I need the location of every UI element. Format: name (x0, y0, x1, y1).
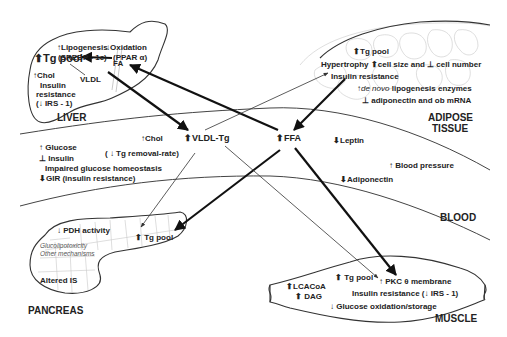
liver-fa: FA (113, 59, 123, 68)
liver-label: LIVER (57, 112, 87, 123)
adipose-de-novo-rest: lipogenesis enzymes (389, 84, 472, 93)
muscle-lcacoa: ⬆LCACoA (286, 282, 326, 291)
pancreas-other-mechanisms: Other mechanisms (40, 250, 95, 257)
muscle-insulin-resistance: Insulin resistance (↓ IRS - 1) (352, 289, 459, 298)
pancreas-pdh-activity: ↓ PDH activity (57, 226, 110, 235)
pancreas-label: PANCREAS (28, 305, 84, 316)
muscle-glucose-oxidation: ↓ Glucose oxidation/storage (330, 302, 437, 311)
adipose-insulin-resistance: Insulin resistance (331, 72, 399, 81)
blood-leptin: ⬇Leptin (333, 136, 364, 145)
muscle-pkc: ↑ PKC θ membrane (379, 277, 452, 286)
metabolic-diagram: ↑Lipogenesis (SREBP - 1c) ↓Oxidation (PP… (0, 0, 507, 337)
blood-pressure: ↑ Blood pressure (389, 161, 454, 170)
blood-impaired-glucose: Impaired glucose homeostasis (45, 164, 162, 173)
liver-chol: ↑Chol (33, 71, 55, 80)
liver-tg-pool: ⬆Tg pool (34, 52, 83, 64)
blood-vldl-tg: ⬆VLDL-Tg (184, 133, 230, 143)
arrow-adipose-to-ffa (294, 79, 345, 130)
adipose-de-novo: ↑de novo lipogenesis enzymes (357, 84, 472, 93)
arrow-vldl-tg-to-muscle (225, 146, 378, 278)
adipose-adiponectin-mrna: ⊥ adiponectin and ob mRNA (362, 96, 471, 105)
arrow-vldl-tg-to-adipose (205, 73, 328, 130)
adipose-label-line2: TISSUE (432, 123, 468, 134)
adipose-hypertrophy: Hypertrophy ⬆cell size and ⊥ cell number (321, 60, 481, 69)
muscle-label: MUSCLE (435, 313, 478, 324)
pancreas-altered-is: Altered IS (40, 276, 78, 285)
liver-lipogenesis: ↑Lipogenesis (57, 43, 108, 52)
blood-ffa: ⬆FFA (276, 133, 301, 143)
line-tg-pool-to-vldl (70, 64, 85, 75)
liver-resistance: resistance (36, 90, 76, 99)
arrow-ffa-to-liver-fa (130, 65, 278, 130)
liver-vldl: VLDL (80, 75, 101, 84)
blood-label: BLOOD (440, 212, 476, 223)
muscle-dag: ⬆ DAG (295, 292, 322, 301)
liver-irs: (↓ IRS - 1) (36, 99, 73, 108)
adipose-de-novo-italic: de novo (361, 84, 390, 93)
pancreas-tg-pool: ⬆ Tg pool (135, 233, 173, 242)
blood-glucose: ↑ Glucose (39, 143, 77, 152)
muscle-tg-pool: ⬆ Tg pool (335, 273, 373, 282)
blood-chol: ↑Chol (141, 134, 163, 143)
adipose-tg-pool: ⬆Tg pool (353, 47, 389, 56)
blood-gir: ⬇GIR (insulin resistance) (39, 174, 136, 183)
adipose-label-line1: ADIPOSE (428, 112, 473, 123)
blood-adiponectin: ⬇Adiponectin (340, 175, 393, 184)
liver-insulin: Insulin (40, 81, 66, 90)
liver-oxidation: ↓Oxidation (106, 43, 147, 52)
arrow-ffa-to-muscle (295, 148, 396, 275)
blood-tg-removal: ( ↓ Tg removal-rate) (105, 149, 179, 158)
arrow-liver-to-vldl-tg (108, 72, 188, 130)
arrow-ffa-to-pancreas (175, 150, 280, 230)
blood-insulin: ⊥ Insulin (39, 154, 74, 163)
pancreas-glucolipotoxicity: Glucolipotoxicity (40, 242, 88, 250)
